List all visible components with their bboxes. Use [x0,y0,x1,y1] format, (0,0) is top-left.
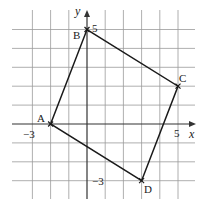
x-axis-label: x [189,128,194,140]
y-axis-arrow-icon [84,10,90,17]
point-label-a: A [37,113,45,124]
grid-lines [12,10,195,199]
tick-label-y-5: 5 [92,23,98,34]
point-label-c: C [179,73,186,84]
point-label-d: D [144,184,152,195]
y-axis-label: y [75,5,80,17]
point-label-b: B [73,30,80,41]
axes [12,10,196,199]
tick-label-y-neg3: −3 [92,176,104,187]
tick-label-x-5: 5 [174,128,180,139]
coordinate-diagram: x y −3 5 5 −3 A B C D [0,0,201,207]
tick-label-x-neg3: −3 [23,129,35,140]
